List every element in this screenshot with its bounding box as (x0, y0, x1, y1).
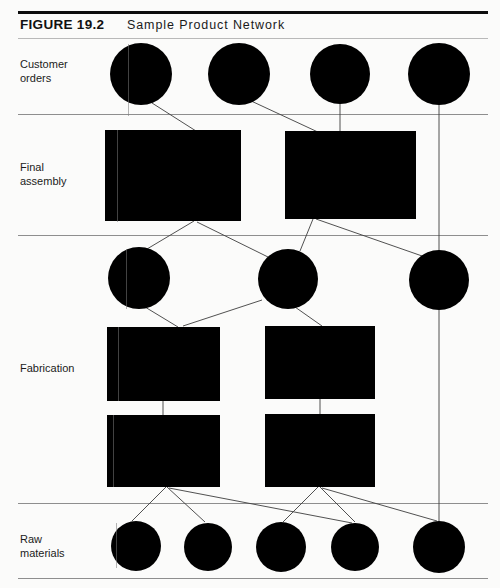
row-label-customer-orders: Customer orders (20, 58, 68, 85)
row-label-fabrication: Fabrication (20, 362, 74, 376)
item-node-rm5 (413, 521, 465, 573)
row-label-final-assembly: Final assembly (20, 161, 66, 188)
link-fb3-rm4 (169, 488, 352, 523)
operation-node-fb2 (265, 326, 375, 399)
item-node-it3 (409, 250, 469, 310)
item-node-it2 (258, 249, 318, 309)
link-it2-fb2 (295, 307, 322, 326)
item-node-co3 (310, 44, 370, 104)
link-co1-fa1 (152, 103, 196, 131)
link-fb4-rm4 (320, 487, 355, 522)
band-rule-3 (18, 578, 488, 579)
link-fb4-rm3 (283, 487, 318, 522)
item-node-co4 (408, 43, 470, 105)
operation-node-fa1 (105, 130, 241, 221)
link-it2-fb1 (183, 300, 262, 326)
band-rule-2 (18, 503, 488, 504)
item-node-rm2 (184, 523, 232, 571)
scan-artifact (118, 327, 119, 401)
scan-artifact (126, 249, 127, 309)
band-rule-0 (18, 114, 488, 115)
link-fb3-rm1 (132, 487, 166, 521)
operation-node-fb4 (265, 414, 375, 487)
figure-container: FIGURE 19.2 Sample Product Network Custo… (0, 0, 500, 588)
figure-number: FIGURE 19.2 (20, 17, 104, 32)
band-rule-1 (18, 235, 488, 236)
operation-node-fb3 (107, 415, 220, 487)
link-fa2-it3 (316, 219, 425, 257)
link-fb3-rm2 (167, 487, 205, 522)
item-node-co1 (110, 43, 172, 105)
item-node-co2 (208, 43, 270, 105)
operation-node-fa2 (285, 131, 416, 219)
item-node-rm1 (111, 521, 161, 571)
scan-artifact (128, 44, 129, 116)
figure-title: Sample Product Network (127, 18, 285, 32)
scan-artifact (113, 415, 114, 487)
link-co2-fa2 (249, 100, 320, 133)
figure-header-rule (18, 38, 488, 39)
item-node-rm3 (256, 522, 306, 572)
item-node-rm4 (331, 523, 379, 571)
link-it1-fb1 (145, 307, 178, 327)
link-fa1-it2 (197, 222, 268, 257)
operation-node-fb1 (107, 327, 220, 401)
figure-top-rule (18, 11, 488, 14)
row-label-raw-materials: Raw materials (20, 533, 65, 560)
item-node-it1 (108, 247, 170, 309)
link-fb4-rm5 (322, 488, 437, 521)
scan-artifact (117, 130, 118, 222)
scan-artifact (116, 523, 117, 568)
